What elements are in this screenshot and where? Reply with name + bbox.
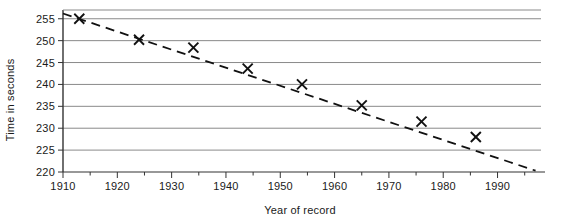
x-axis-title: Year of record [264, 204, 336, 216]
y-axis-tick-label: 220 [36, 166, 55, 178]
y-axis-tick-label: 230 [36, 122, 55, 134]
x-axis-label-group: 191019201930194019501960197019801990 [50, 180, 510, 192]
chart-figure: 220225230235240245250255 191019201930194… [0, 0, 570, 220]
x-axis-tick-label: 1990 [485, 180, 510, 192]
x-axis-tick-label: 1910 [50, 180, 75, 192]
y-axis-tick-label: 250 [36, 35, 55, 47]
y-axis-tick-label: 245 [36, 57, 55, 69]
y-axis-title: Time in seconds [4, 58, 16, 141]
x-axis-tick-label: 1970 [376, 180, 401, 192]
x-axis-tick-label: 1940 [213, 180, 238, 192]
y-axis-tick-label: 225 [36, 144, 55, 156]
x-axis-tick-label: 1920 [105, 180, 130, 192]
x-axis-tick-label: 1950 [268, 180, 293, 192]
x-axis-tick-label: 1980 [431, 180, 456, 192]
x-axis-tick-label: 1960 [322, 180, 347, 192]
x-axis-tick-label: 1930 [159, 180, 184, 192]
y-axis-tick-label: 255 [36, 13, 55, 25]
y-axis-tick-label: 235 [36, 100, 55, 112]
y-axis-tick-label: 240 [36, 78, 55, 90]
